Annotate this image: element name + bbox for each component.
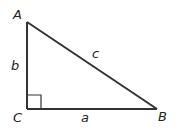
right-triangle-diagram: A C B b a c [0,0,180,132]
vertex-label-b: B [158,109,167,124]
side-label-b: b [11,58,19,73]
vertex-label-a: A [12,7,22,22]
side-label-c: c [92,46,99,61]
side-label-a: a [81,110,89,125]
vertex-label-c: C [13,110,23,125]
